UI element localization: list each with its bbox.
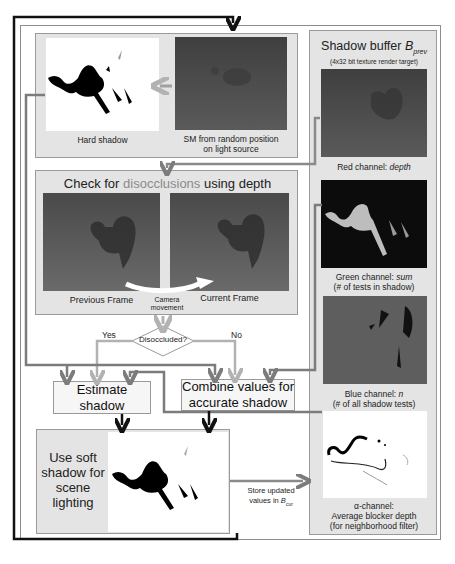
soft-shadow-panel: Use soft shadow for scene lighting [36, 429, 230, 534]
soft-shadow-label: Use soft shadow for scene lighting [39, 450, 107, 510]
soft-shadow-image [108, 432, 228, 532]
alpha-channel-image [323, 411, 427, 498]
combine-values-box: Combine values foraccurate shadow [181, 379, 295, 411]
blue-channel-image [323, 296, 427, 384]
estimate-shadow-box: Estimateshadow [53, 381, 151, 414]
yes-label: Yes [102, 330, 116, 340]
blue-channel-caption: Blue channel: n (# of all shadow tests) [310, 389, 438, 409]
red-channel-image [321, 69, 427, 157]
shadow-buffer-subtitle: (4x32 bit texture render target) [310, 57, 438, 67]
alpha-channel-caption: α-channel: Average blocker depth (for ne… [310, 501, 438, 531]
store-updated-label: Store updated values in Bcur [238, 486, 304, 509]
red-channel-caption: Red channel: depth [310, 162, 438, 172]
green-channel-image [321, 180, 427, 268]
shadow-buffer-title: Shadow buffer Bprev [310, 39, 438, 55]
shadow-buffer-panel: Shadow buffer Bprev (4x32 bit texture re… [309, 30, 437, 535]
no-label: No [231, 330, 242, 340]
green-channel-caption: Green channel: sum (# of tests in shadow… [310, 272, 438, 292]
disoccluded-label: Disoccluded? [132, 335, 194, 344]
